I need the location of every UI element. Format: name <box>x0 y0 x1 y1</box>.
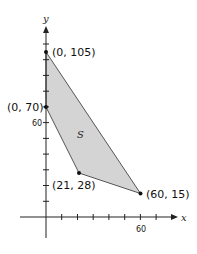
x-axis-label: x <box>181 212 187 223</box>
region-label: S <box>77 129 84 140</box>
y-tick-label-60: 60 <box>32 119 42 128</box>
x-axis-arrow-icon <box>171 214 178 220</box>
vertex-60-15 <box>139 192 143 196</box>
vertex-label-0-105: (0, 105) <box>52 46 96 59</box>
feasible-region-chart: x y 60 60 S (0, 105) (0, 70) (21, 28) (6… <box>0 0 197 254</box>
vertex-label-0-70: (0, 70) <box>7 101 44 114</box>
vertex-0-105 <box>44 50 48 54</box>
y-axis-label: y <box>42 13 49 24</box>
vertex-label-60-15: (60, 15) <box>146 188 190 201</box>
vertex-0-70 <box>44 105 48 109</box>
vertex-21-28 <box>77 171 81 175</box>
feasible-region-s <box>46 52 141 194</box>
x-tick-label-60: 60 <box>136 225 146 234</box>
y-axis-arrow-icon <box>43 26 49 33</box>
vertex-label-21-28: (21, 28) <box>52 179 96 192</box>
